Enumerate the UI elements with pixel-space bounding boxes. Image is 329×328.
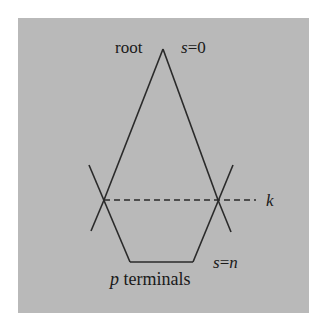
right-upper-edge	[163, 49, 218, 200]
p-terminals-label: p terminals	[108, 269, 190, 289]
left-lower-edge	[89, 165, 130, 262]
s-zero-label: s=0	[181, 38, 206, 57]
right-upper-extension	[218, 200, 231, 232]
root-label: root	[115, 38, 143, 57]
s-n-label: s=n	[213, 253, 238, 272]
tree-diagram: root s=0 k s=n p terminals	[0, 0, 329, 328]
left-upper-extension	[91, 200, 104, 231]
right-lower-edge	[193, 165, 233, 262]
left-upper-edge	[104, 49, 163, 200]
k-label: k	[266, 191, 274, 210]
